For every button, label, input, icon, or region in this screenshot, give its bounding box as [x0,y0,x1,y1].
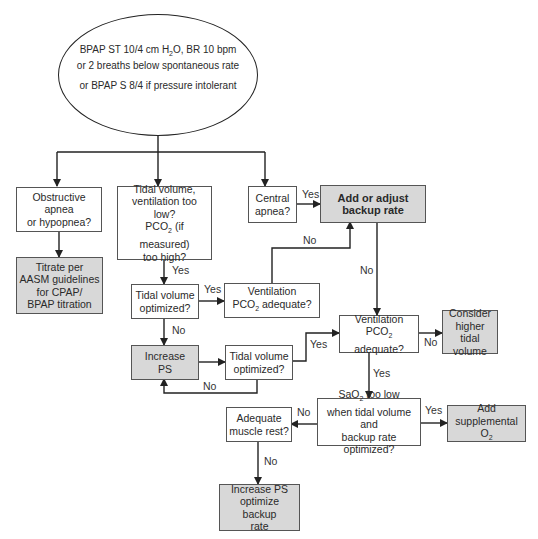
edge-label-no-muscle: No [264,455,277,467]
edge-label-yes-sao2: Yes [425,404,442,416]
sao2-too-low-node: SaO2 too low when tidal volume andbackup… [317,398,421,446]
start-line-1: BPAP ST 10/4 cm H2O, BR 10 bpm [80,44,237,60]
edge-label-yes-central: Yes [302,188,319,200]
edge-label-yes-vent-right: Yes [373,367,390,379]
tidal-volume-optimized-node-1: Tidal volumeoptimized? [131,284,199,319]
edge-label-no-vent-right: No [424,336,437,348]
ventilation-adequate-node-left: Ventilation PCO2 adequate? [224,283,320,318]
central-apnea-node: Centralapnea? [248,186,297,223]
adequate-muscle-rest-node: Adequatemuscle rest? [226,407,292,442]
edge-label-no-tv-opt1: No [172,324,185,336]
start-line-3: or BPAP S 8/4 if pressure intolerant [80,80,237,92]
obstructive-apnea-node: Obstructive apneaor hypopnea? [16,187,102,232]
edge-label-no-sao2: No [297,406,310,418]
titrate-node: Titrate perAASM guidelinesfor CPAP/BPAP … [16,257,103,314]
start-line-2: or 2 breaths below spontaneous rate [77,60,239,72]
edge-label-yes-tv-opt2: Yes [310,338,327,350]
increase-ps-optimize-backup-node: Increase PSoptimize backuprate [219,484,300,531]
edge-label-yes-tidal-low: Yes [172,264,189,276]
tidal-volume-optimized-node-2: Tidal volumeoptimized? [225,345,293,380]
increase-ps-node: IncreasePS [131,345,199,380]
ventilation-adequate-node-right: Ventilation PCO2 adequate? [339,315,419,353]
add-supplemental-o2-node: Add supplemental O2 [447,405,526,442]
edge-label-no-vent-left: No [303,234,316,246]
consider-higher-tidal-node: Considerhigher tidalvolume [442,310,498,354]
tidal-volume-low-node: Tidal volume,ventilation too low? PCO2 (… [117,186,212,260]
edge-label-no-tv-opt2: No [203,380,216,392]
edge-label-yes-tv-opt1: Yes [204,283,221,295]
add-backup-rate-node: Add or adjustbackup rate [320,185,426,223]
start-ellipse: BPAP ST 10/4 cm H2O, BR 10 bpm or 2 brea… [58,14,258,136]
edge-label-no-backup: No [360,264,373,276]
